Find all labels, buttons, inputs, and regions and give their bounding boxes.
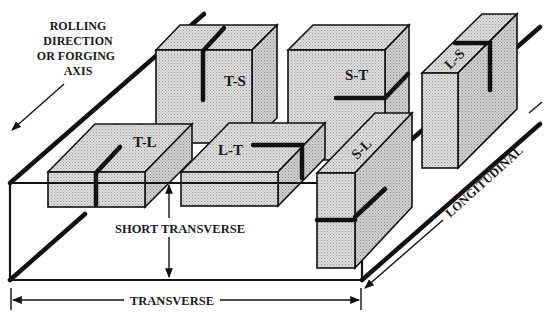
- specimen-T-L: T-L: [48, 124, 192, 207]
- orientation-diagram: T-S S-T L-S T-L L-T: [0, 0, 544, 323]
- specimen-label-S-T: S-T: [345, 67, 368, 83]
- specimen-label-T-S: T-S: [224, 73, 246, 89]
- transverse-label: TRANSVERSE: [130, 294, 214, 308]
- rolling-direction-indicator: ROLLING DIRECTION OR FORGING AXIS: [12, 19, 115, 130]
- rolling-label-line-4: AXIS: [64, 64, 93, 78]
- specimen-label-L-T: L-T: [218, 142, 243, 158]
- transverse-indicator: TRANSVERSE: [11, 288, 361, 310]
- short-transverse-label: SHORT TRANSVERSE: [115, 222, 245, 236]
- specimen-label-T-L: T-L: [133, 134, 157, 150]
- rolling-label-line-1: ROLLING: [50, 19, 107, 33]
- rolling-label-line-2: DIRECTION: [43, 34, 113, 48]
- specimen-L-S: L-S: [422, 14, 517, 168]
- rolling-direction-arrow: [12, 84, 64, 130]
- rolling-label-line-3: OR FORGING: [37, 49, 115, 63]
- plate-bottom-left-edge: [10, 214, 85, 280]
